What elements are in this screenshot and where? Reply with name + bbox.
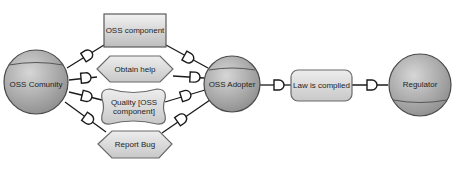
depends-d-icon — [81, 48, 95, 62]
actor-label-oss-community: OSS Comunity — [8, 70, 64, 98]
depends-d-icon — [175, 112, 189, 126]
resource-label-oss-component: OSS component — [104, 14, 166, 47]
depends-d-icon — [182, 51, 196, 65]
softgoal-label-quality: Quality [OSS component] — [108, 92, 160, 122]
depends-d-icon — [367, 80, 377, 90]
actor-label-oss-adopter: OSS Adopter — [204, 78, 260, 90]
depends-d-icon — [180, 89, 192, 101]
depends-d-icon — [274, 80, 284, 90]
depends-d-icon — [82, 112, 96, 126]
depends-d-icon — [81, 72, 92, 83]
goal-label-law-is-complied: Law is complied — [291, 70, 352, 101]
actor-label-regulator: Regulator — [392, 78, 448, 90]
task-label-obtain-help: Obtain help — [100, 56, 170, 82]
istar-diagram-canvas — [0, 0, 454, 180]
task-label-report-bug: Report Bug — [100, 131, 170, 158]
depends-d-icon — [81, 90, 93, 102]
depends-d-icon — [190, 72, 201, 83]
